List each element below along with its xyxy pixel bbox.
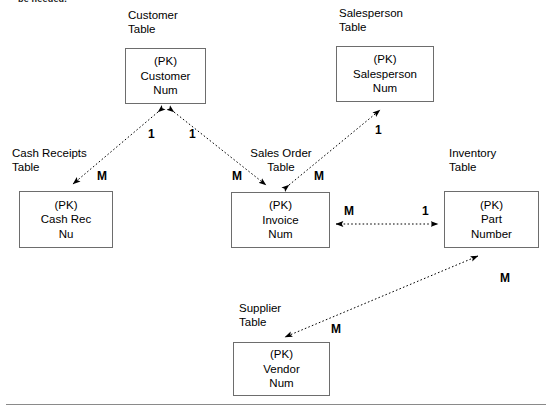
caption-line: Customer [128, 8, 178, 22]
entity-cash-receipts-table[interactable]: (PK) Cash Rec Nu [19, 191, 113, 248]
caption-line: Cash Receipts [12, 146, 87, 160]
caption-inventory-table: Inventory Table [449, 146, 496, 174]
footer-divider [6, 404, 546, 405]
cardinality-sales-order-inventory-many: M [344, 205, 354, 217]
entity-line: Invoice [262, 213, 298, 228]
cardinality-customer-sales-order-many: M [232, 170, 242, 182]
caption-supplier-table: Supplier Table [239, 301, 281, 329]
cardinality-inventory-supplier-many-right: M [500, 272, 510, 284]
caption-cash-receipts-table: Cash Receipts Table [12, 146, 87, 174]
cardinality-sales-order-inventory-one: 1 [422, 205, 429, 217]
entity-sales-order-table[interactable]: (PK) Invoice Num [231, 192, 330, 248]
entity-line: Vendor [263, 362, 299, 377]
caption-line: Salesperson [339, 6, 403, 20]
entity-line: Part [481, 212, 502, 227]
caption-line: Supplier [239, 301, 281, 315]
connector-inventory-supplier [285, 256, 478, 337]
caption-line: Table [128, 22, 178, 36]
entity-line: Num [153, 83, 177, 98]
entity-inventory-table[interactable]: (PK) Part Number [444, 191, 539, 248]
caption-line: Table [239, 315, 281, 329]
cardinality-customer-cash-receipts-one: 1 [148, 128, 155, 140]
entity-line: (PK) [55, 198, 78, 213]
cardinality-inventory-supplier-many-left: M [331, 323, 341, 335]
caption-salesperson-table: Salesperson Table [339, 6, 403, 34]
cardinality-salesperson-sales-order-one: 1 [375, 124, 382, 136]
caption-customer-table: Customer Table [128, 8, 178, 36]
top-clipped-note: be needed. [18, 0, 67, 2]
entity-line: Nu [59, 227, 74, 242]
entity-line: Num [373, 81, 397, 96]
entity-line: (PK) [154, 54, 177, 69]
cardinality-customer-cash-receipts-many: M [97, 170, 107, 182]
caption-line: Table [12, 160, 87, 174]
entity-line: Customer [141, 69, 191, 84]
caption-line: Table [339, 20, 403, 34]
entity-line: Num [268, 227, 292, 242]
diagram-canvas: be needed. Cash Receipts --> Sales Order… [0, 0, 552, 414]
entity-line: Num [269, 376, 293, 391]
cardinality-salesperson-sales-order-many: M [314, 170, 324, 182]
entity-line: Cash Rec [41, 212, 92, 227]
entity-salesperson-table[interactable]: (PK) Salesperson Num [336, 46, 434, 102]
caption-line: Table [449, 160, 496, 174]
entity-customer-table[interactable]: (PK) Customer Num [125, 48, 206, 104]
entity-line: (PK) [374, 52, 397, 67]
entity-line: Number [471, 227, 512, 242]
entity-line: (PK) [480, 198, 503, 213]
caption-line: Inventory [449, 146, 496, 160]
entity-line: (PK) [269, 198, 292, 213]
entity-line: (PK) [270, 347, 293, 362]
caption-line: Sales Order [235, 146, 327, 160]
entity-supplier-table[interactable]: (PK) Vendor Num [233, 342, 330, 396]
cardinality-customer-sales-order-one: 1 [189, 128, 196, 140]
entity-line: Salesperson [353, 67, 417, 82]
